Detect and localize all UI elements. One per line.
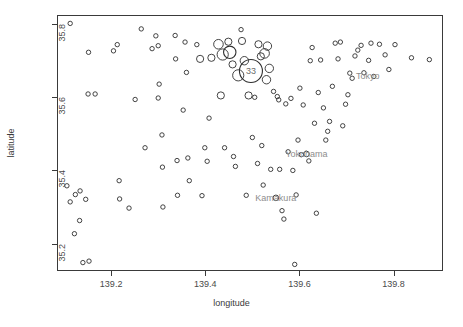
x-axis-tick-label: 139.4 [194,279,217,289]
y-axis-tick-label: 35.6 [57,97,67,115]
x-axis-tick [299,271,300,276]
x-axis-tick [394,271,395,276]
plot-frame [57,15,443,271]
x-axis-tick-label: 139.8 [382,279,405,289]
y-axis-tick-label: 35.8 [57,24,67,42]
chart-screenshot: TokyoYokohamaKamakura33 139.2139.4139.61… [0,0,463,327]
x-axis-tick-label: 139.2 [100,279,123,289]
x-axis-tick [205,271,206,276]
x-axis-title: longitude [0,298,463,308]
y-axis-tick-label: 35.2 [57,244,67,262]
x-axis-tick [111,271,112,276]
y-axis-tick-label: 35.4 [57,170,67,188]
x-axis-tick-label: 139.6 [288,279,311,289]
y-axis-title: latitude [6,128,16,157]
